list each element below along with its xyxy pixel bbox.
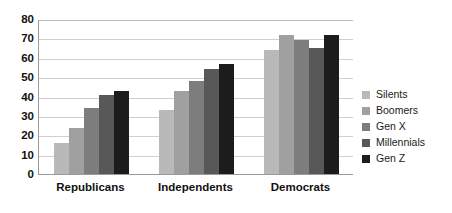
bar-group: [54, 20, 129, 174]
bar: [324, 35, 339, 175]
bar-chart-figure: 01020304050607080 RepublicansIndependent…: [0, 0, 452, 213]
legend-label: Silents: [376, 89, 408, 100]
plot-area: [38, 20, 353, 175]
legend-item: Millennials: [362, 135, 448, 150]
bar-group: [159, 20, 234, 174]
y-tick-label: 10: [4, 150, 34, 162]
y-axis: 01020304050607080: [0, 0, 34, 213]
bar-group: [264, 20, 339, 174]
legend-label: Boomers: [376, 105, 418, 116]
bar: [264, 50, 279, 174]
legend-item: Silents: [362, 87, 448, 102]
legend-item: Gen X: [362, 119, 448, 134]
bar: [84, 108, 99, 174]
y-tick-label: 0: [4, 169, 34, 181]
bar: [309, 48, 324, 174]
bar: [54, 143, 69, 174]
legend-label: Gen X: [376, 121, 406, 132]
y-tick-label: 50: [4, 72, 34, 84]
bar: [69, 128, 84, 175]
x-tick-label: Republicans: [56, 181, 124, 193]
legend-swatch-icon: [362, 123, 370, 131]
bar: [294, 40, 309, 174]
chart-legend: SilentsBoomersGen XMillennialsGen Z: [362, 87, 448, 167]
bar: [219, 64, 234, 174]
y-tick-label: 80: [4, 14, 34, 26]
legend-swatch-icon: [362, 155, 370, 163]
legend-item: Gen Z: [362, 151, 448, 166]
legend-swatch-icon: [362, 91, 370, 99]
legend-swatch-icon: [362, 107, 370, 115]
bar: [159, 110, 174, 174]
x-axis: RepublicansIndependentsDemocrats: [38, 181, 353, 201]
legend-label: Gen Z: [376, 153, 405, 164]
bar: [114, 91, 129, 174]
bars-layer: [39, 20, 353, 174]
y-tick-label: 70: [4, 33, 34, 45]
x-tick-label: Democrats: [271, 181, 330, 193]
legend-item: Boomers: [362, 103, 448, 118]
y-tick-label: 60: [4, 53, 34, 65]
x-tick-label: Independents: [158, 181, 233, 193]
bar: [279, 35, 294, 175]
bar: [204, 69, 219, 174]
bar: [99, 95, 114, 174]
y-tick-label: 20: [4, 130, 34, 142]
bar: [189, 81, 204, 174]
legend-swatch-icon: [362, 139, 370, 147]
legend-label: Millennials: [376, 137, 425, 148]
bar: [174, 91, 189, 174]
y-tick-label: 30: [4, 111, 34, 123]
y-tick-label: 40: [4, 92, 34, 104]
